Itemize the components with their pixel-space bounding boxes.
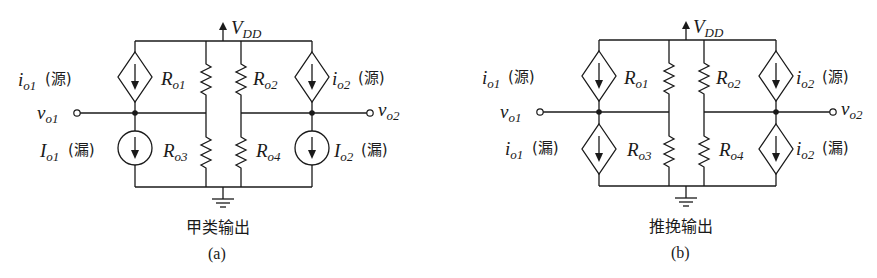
- independent-current-source-icon: [118, 131, 152, 165]
- label-ro3: Ro3: [626, 139, 652, 163]
- output-terminal-icon: [830, 109, 836, 115]
- label-io2-source: io2: [332, 68, 351, 92]
- label-drain-note: (漏): [68, 141, 95, 159]
- ground-icon: [675, 186, 697, 206]
- label-Io2-drain: Io2: [333, 140, 354, 164]
- dependent-current-source-icon: [582, 124, 616, 174]
- label-vo2: vo2: [841, 98, 863, 122]
- resistor-icon: [699, 57, 709, 97]
- label-ro2: Ro2: [252, 68, 278, 92]
- label-Io1-drain: Io1: [39, 140, 59, 164]
- panel-title: 推挽输出: [649, 217, 713, 236]
- panel-caption: (a): [208, 245, 226, 263]
- label-source-note: (源): [508, 68, 535, 86]
- resistor-icon: [236, 131, 246, 171]
- label-ro1: Ro1: [160, 68, 186, 92]
- label-source-note: (源): [822, 68, 849, 86]
- label-vo1: vo1: [37, 102, 58, 126]
- resistor-icon: [236, 58, 246, 98]
- label-source-note: (源): [358, 69, 385, 87]
- label-io2-source: io2: [796, 67, 815, 91]
- dependent-current-source-icon: [759, 124, 793, 174]
- label-vo2: vo2: [378, 99, 400, 123]
- panel-title: 甲类输出: [186, 218, 250, 237]
- output-terminal-icon: [74, 110, 80, 116]
- label-ro2: Ro2: [715, 67, 741, 91]
- resistor-icon: [699, 130, 709, 170]
- label-source-note: (源): [45, 70, 72, 88]
- label-ro1: Ro1: [623, 67, 649, 91]
- label-io1-source: io1: [482, 67, 500, 91]
- output-terminal-icon: [367, 110, 373, 116]
- dependent-current-source-icon: [582, 51, 616, 101]
- label-io2-drain: io2: [796, 138, 815, 162]
- label-ro3: Ro3: [162, 140, 188, 164]
- label-vo1: vo1: [500, 101, 521, 125]
- label-drain-note: (漏): [532, 139, 559, 157]
- resistor-icon: [664, 130, 674, 170]
- vdd-label: VDD: [693, 16, 724, 40]
- panel-a-class-a-output: VDD io1 (源): [18, 17, 400, 263]
- label-io1-drain: io1: [505, 138, 523, 162]
- vdd-label: VDD: [231, 17, 262, 41]
- label-ro4: Ro4: [718, 139, 744, 163]
- panel-caption: (b): [671, 244, 690, 262]
- label-drain-note: (漏): [822, 139, 849, 157]
- ground-icon: [212, 187, 234, 207]
- label-drain-note: (漏): [361, 141, 388, 159]
- label-io1-source: io1: [18, 69, 36, 93]
- independent-current-source-icon: [295, 131, 329, 165]
- dependent-current-source-icon: [118, 52, 152, 102]
- output-terminal-icon: [537, 109, 543, 115]
- resistor-icon: [201, 131, 211, 171]
- label-ro4: Ro4: [255, 140, 281, 164]
- resistor-icon: [664, 57, 674, 97]
- dependent-current-source-icon: [759, 51, 793, 101]
- resistor-icon: [201, 58, 211, 98]
- dependent-current-source-icon: [295, 52, 329, 102]
- panel-b-push-pull-output: VDD io1 (源) vo1 io1 (漏): [482, 16, 863, 262]
